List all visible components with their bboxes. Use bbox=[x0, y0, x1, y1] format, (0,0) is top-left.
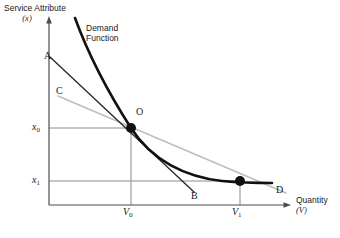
point-label-a: A bbox=[44, 50, 51, 62]
diagram-background bbox=[0, 0, 340, 238]
tick-label-x1-sub: 1 bbox=[36, 179, 40, 187]
demand-function-label-line1: Demand bbox=[86, 23, 118, 33]
point-label-o: O bbox=[136, 106, 143, 118]
demand-function-label-line2: Function bbox=[86, 33, 119, 43]
x-axis-unit-text: (V) bbox=[296, 205, 307, 215]
point-label-b: B bbox=[191, 190, 198, 202]
tick-label-v0-sub: 0 bbox=[129, 211, 133, 219]
y-axis-title-text: Service Attribute bbox=[4, 3, 66, 13]
tick-label-x0-sub: 0 bbox=[36, 126, 40, 134]
tick-label-v1-sub: 1 bbox=[238, 211, 242, 219]
point-label-d: D bbox=[276, 184, 283, 196]
marker-point-o bbox=[126, 123, 136, 133]
x-axis-title: Quantity (V) bbox=[296, 196, 340, 216]
tick-label-x0: x0 bbox=[32, 121, 40, 133]
demand-function-diagram bbox=[0, 0, 340, 238]
tick-label-x1: x1 bbox=[32, 174, 40, 186]
x-axis-title-text: Quantity bbox=[296, 195, 328, 205]
y-axis-unit-text: (x) bbox=[22, 13, 31, 23]
tick-label-v0: V0 bbox=[123, 206, 133, 218]
marker-point-v1 bbox=[235, 176, 245, 186]
demand-function-label: Demand Function bbox=[86, 24, 119, 44]
y-axis-title: Service Attribute (x) bbox=[4, 4, 50, 24]
tick-label-v1: V1 bbox=[232, 206, 242, 218]
point-label-c: C bbox=[56, 85, 63, 97]
